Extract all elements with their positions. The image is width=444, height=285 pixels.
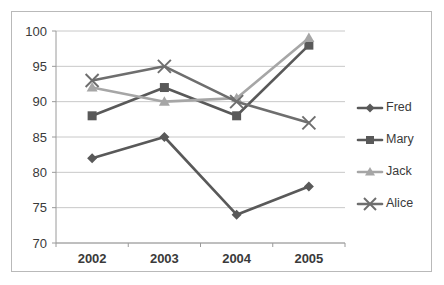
y-tick-label: 75	[33, 200, 47, 215]
data-point-square	[232, 111, 241, 120]
legend-label: Alice	[386, 196, 413, 210]
series-alice	[86, 60, 316, 130]
y-tick-label: 100	[25, 24, 47, 39]
legend-item-mary[interactable]: Mary	[358, 132, 415, 146]
series-fred	[87, 132, 314, 220]
y-tick-marks	[52, 31, 56, 243]
gridlines	[56, 31, 345, 243]
line-chart: 707580859095100 2002200320042005 FredMar…	[0, 0, 444, 285]
x-tick-label: 2004	[222, 251, 252, 266]
series-mary	[88, 41, 314, 121]
series-jack	[87, 33, 315, 106]
y-tick-label: 95	[33, 59, 47, 74]
data-point-square	[366, 136, 374, 144]
x-tick-marks	[56, 243, 345, 247]
data-point-diamond	[304, 181, 314, 191]
y-tick-labels: 707580859095100	[25, 24, 47, 251]
x-tick-label: 2002	[78, 251, 107, 266]
y-tick-label: 70	[33, 236, 47, 251]
legend-item-jack[interactable]: Jack	[358, 164, 412, 178]
data-point-triangle	[303, 33, 314, 43]
series-line	[92, 137, 309, 215]
y-tick-label: 80	[33, 165, 47, 180]
y-tick-label: 85	[33, 130, 47, 145]
y-tick-label: 90	[33, 94, 47, 109]
x-tick-label: 2005	[294, 251, 323, 266]
data-point-diamond	[87, 153, 97, 163]
series-line	[92, 45, 309, 116]
data-point-diamond	[366, 104, 375, 113]
legend-label: Fred	[386, 100, 412, 114]
legend-label: Jack	[386, 164, 412, 178]
series-group	[86, 33, 316, 220]
legend-item-fred[interactable]: Fred	[358, 100, 412, 114]
chart-screenshot: 707580859095100 2002200320042005 FredMar…	[0, 0, 444, 285]
chart-legend: FredMaryJackAlice	[358, 100, 415, 210]
legend-item-alice[interactable]: Alice	[358, 196, 413, 210]
x-tick-label: 2003	[150, 251, 179, 266]
series-line	[92, 38, 309, 102]
legend-label: Mary	[386, 132, 415, 146]
x-tick-labels: 2002200320042005	[78, 251, 324, 266]
data-point-square	[88, 111, 97, 120]
data-point-square	[160, 83, 169, 92]
